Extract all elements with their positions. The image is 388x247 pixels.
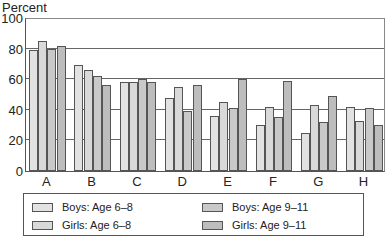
bar: [283, 81, 292, 171]
bar: [93, 76, 102, 171]
x-tick-label: F: [263, 174, 283, 189]
bar: [210, 116, 219, 171]
gridline: [26, 48, 384, 49]
bar: [129, 82, 138, 171]
bar: [229, 108, 238, 171]
legend-swatch: [202, 221, 223, 230]
plot-area: [25, 18, 385, 172]
bar: [374, 125, 383, 171]
bar: [47, 49, 56, 171]
legend-label: Girls: Age 6–8: [62, 219, 131, 231]
legend-label: Boys: Age 9–11: [232, 201, 308, 213]
bar: [29, 50, 38, 171]
bar: [174, 87, 183, 171]
bar: [355, 121, 364, 171]
legend-item: Boys: Age 9–11: [202, 201, 308, 213]
legend-item: Girls: Age 6–8: [32, 219, 131, 231]
bar: [183, 111, 192, 171]
y-tick-label: 100: [0, 11, 23, 26]
bar: [238, 79, 247, 171]
y-tick-label: 80: [0, 42, 23, 57]
bar: [328, 96, 337, 171]
bar: [346, 107, 355, 171]
x-tick-label: D: [172, 174, 192, 189]
bar: [310, 105, 319, 171]
bar: [57, 46, 66, 171]
bar: [301, 133, 310, 171]
legend-item: Girls: Age 9–11: [202, 219, 306, 231]
x-tick-label: H: [354, 174, 374, 189]
x-tick-label: A: [36, 174, 56, 189]
bar: [120, 82, 129, 171]
bar: [74, 65, 83, 171]
bar: [138, 79, 147, 171]
y-tick-label: 40: [0, 103, 23, 118]
y-tick-label: 60: [0, 72, 23, 87]
bar: [193, 85, 202, 171]
legend-swatch: [32, 221, 53, 230]
bar: [102, 85, 111, 171]
bar: [165, 98, 174, 171]
bar: [319, 122, 328, 171]
x-tick-label: E: [218, 174, 238, 189]
bar: [256, 125, 265, 171]
bar: [274, 117, 283, 171]
legend-swatch: [32, 203, 53, 212]
legend-label: Boys: Age 6–8: [62, 201, 133, 213]
bar: [38, 41, 47, 171]
bar: [147, 82, 156, 171]
legend: Boys: Age 6–8 Girls: Age 6–8 Boys: Age 9…: [23, 193, 364, 236]
legend-swatch: [202, 203, 223, 212]
y-tick-label: 20: [0, 133, 23, 148]
legend-item: Boys: Age 6–8: [32, 201, 133, 213]
bar: [265, 107, 274, 171]
bar: [365, 108, 374, 171]
x-tick-label: G: [308, 174, 328, 189]
y-tick-label: 0: [0, 164, 23, 179]
x-tick-label: B: [82, 174, 102, 189]
bar: [84, 70, 93, 171]
legend-label: Girls: Age 9–11: [232, 219, 306, 231]
bar: [219, 102, 228, 171]
x-tick-label: C: [127, 174, 147, 189]
